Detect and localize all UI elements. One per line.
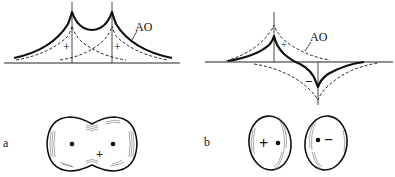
panel-b-nucleus-left (276, 141, 281, 146)
panel-a-sign-right: + (114, 40, 121, 54)
panel-a-plot: AO + + (4, 2, 180, 63)
panel-a-peanut-outline (47, 117, 137, 171)
panel-b-plot: AO + − (205, 12, 393, 105)
panel-b-nucleus-right (316, 138, 321, 143)
panel-b-contour-sign-minus: − (324, 131, 333, 148)
mo-diagram: AO + + AO + − a (0, 0, 395, 177)
panel-b-sign-plus: + (281, 39, 287, 50)
panel-a-nucleus-left (70, 142, 75, 147)
panel-a-mo-curve (14, 12, 172, 58)
panel-a-ao-left (16, 26, 126, 60)
panel-b-contour-sign-plus: + (259, 135, 268, 152)
panel-b-ao-label: AO (310, 30, 328, 44)
panel-a-ao-label: AO (135, 20, 153, 34)
panel-a-nucleus-right (111, 142, 116, 147)
panel-a-label: a (3, 136, 9, 150)
panel-b-contour: b + − (204, 114, 350, 172)
panel-a-sign-left: + (63, 40, 70, 54)
panel-a-contour: a + (3, 117, 137, 171)
panel-a-contour-sign: + (96, 147, 103, 161)
panel-b-label: b (204, 135, 210, 149)
panel-b-sign-minus: − (305, 74, 312, 89)
